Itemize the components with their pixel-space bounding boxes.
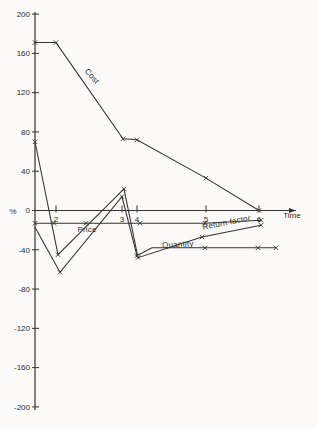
y-tick-label: 0: [26, 206, 31, 215]
y-tick-label: -120: [14, 324, 31, 333]
y-tick-label: 80: [21, 128, 30, 137]
series-cost-label: Cost: [83, 67, 102, 86]
y-tick-label: 200: [17, 10, 31, 19]
x-axis-title: Time: [283, 211, 301, 220]
line-chart-figure: 20016012080400-40-80-120-160-20023456%Ti…: [0, 0, 317, 428]
series-cost-marker: [204, 176, 208, 180]
x-tick-label: 3: [120, 215, 125, 224]
series-return-factor-line: [35, 142, 261, 258]
y-tick-label: 40: [21, 167, 30, 176]
y-tick-label: -160: [14, 363, 31, 372]
chart-canvas: 20016012080400-40-80-120-160-20023456%Ti…: [0, 0, 317, 428]
y-tick-label: 120: [17, 88, 31, 97]
series-cost-line: [35, 43, 259, 211]
y-tick-label: -40: [18, 246, 30, 255]
y-tick-label: 160: [17, 49, 31, 58]
y-axis-title: %: [9, 207, 16, 216]
y-tick-label: -80: [18, 285, 30, 294]
y-tick-label: -200: [14, 403, 31, 412]
series-quantity-line: [35, 197, 276, 273]
series-quantity-marker: [58, 270, 62, 274]
